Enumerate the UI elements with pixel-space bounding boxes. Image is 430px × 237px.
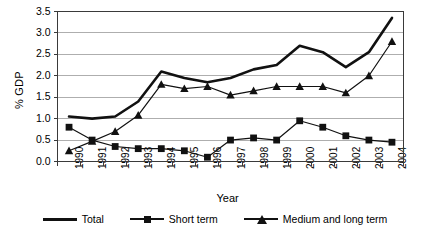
legend-swatch-square-icon — [130, 213, 164, 225]
legend-item[interactable]: Short term — [130, 213, 218, 225]
plot-area — [0, 0, 430, 237]
legend-item[interactable]: Total — [43, 213, 104, 225]
legend-label: Short term — [169, 213, 218, 225]
legend-swatch-none-icon — [43, 213, 77, 225]
legend-swatch-triangle-icon — [244, 213, 278, 225]
chart-legend: TotalShort termMedium and long term — [0, 213, 430, 225]
chart-figure: % GDP 0.00.51.01.52.02.53.03.5 199019911… — [0, 0, 430, 237]
legend-label: Medium and long term — [283, 213, 387, 225]
legend-label: Total — [82, 213, 104, 225]
legend-item[interactable]: Medium and long term — [244, 213, 387, 225]
